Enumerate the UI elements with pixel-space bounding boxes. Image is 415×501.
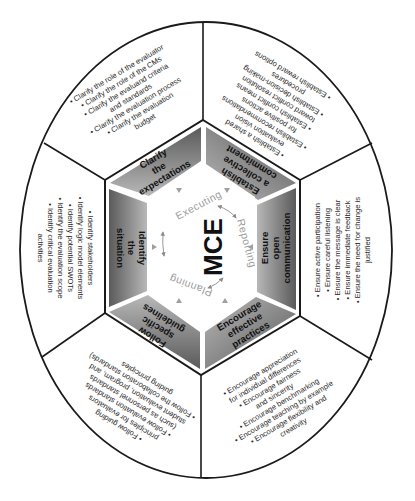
segment-label-line: Identify [137,231,148,266]
segment-label-line: open [270,236,281,259]
bullet-line: • Ensure immediate feedback [343,200,352,299]
segment-label-line: communication [281,212,292,283]
segment-label-line: situation [115,228,126,268]
bullet-line: • Ensure the message is clear [333,199,342,300]
bullet-line: • Identify logic model elements [76,197,85,300]
bullet-line: • Ensure careful listening [323,208,332,292]
bullet-line: • Ensure active participation [313,203,322,297]
bullet-line: • Identify potential SWOTs [66,204,75,292]
segment-label-line: Ensure [259,232,270,265]
bullet-line: justified [363,237,372,264]
segment-label-line: the [126,241,137,255]
bullet-line: • Identify critical evaluation [46,203,55,293]
mce-diagram: MCE Executing Reporting Planning Clarify… [0,0,415,501]
bullet-line: • Ensure the need for change is [353,197,362,303]
bullet-line: • Identify the evaluation scope [56,197,65,298]
bullet-line: • Identify stakeholders [86,211,95,286]
core-label: MCE [198,218,228,276]
bullet-line: activities [36,233,45,262]
